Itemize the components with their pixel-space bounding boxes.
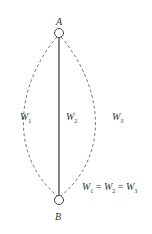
node-b-circle [55,196,64,205]
w1-label: W1 [20,112,31,124]
equality-equation: W1 = W2 = W3 [82,182,137,194]
node-a-circle [55,29,64,38]
node-b-label: B [55,212,61,222]
w2-label: W2 [66,112,77,124]
node-a-label: A [56,17,62,27]
w3-label: W3 [112,112,123,124]
